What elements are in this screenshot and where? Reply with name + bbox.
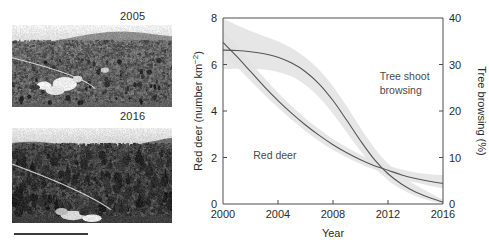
y-tick-label-right: 40	[449, 12, 461, 24]
annotation: browsing	[380, 84, 422, 96]
photo-2005	[12, 25, 172, 107]
y-tick-label-right: 10	[449, 152, 461, 164]
y-tick-label-left: 6	[211, 59, 217, 71]
x-tick-label: 2012	[376, 208, 400, 220]
y-tick-label-right: 0	[449, 198, 455, 210]
y-tick-label-left: 4	[211, 105, 217, 117]
confidence-bands	[223, 18, 443, 203]
x-tick-label: 2004	[266, 208, 290, 220]
y-tick-label-right: 20	[449, 105, 461, 117]
photo-2016	[12, 128, 172, 223]
y-tick-label-left: 0	[211, 198, 217, 210]
y-tick-label-left: 2	[211, 152, 217, 164]
y-tick-label-left: 8	[211, 12, 217, 24]
x-tick-label: 2008	[321, 208, 345, 220]
photo-2005-image	[12, 25, 172, 107]
photo-caption-2005: 2005	[120, 10, 145, 22]
y-tick-label-right: 30	[449, 59, 461, 71]
chart-panel: 2000200420082012201602468010203040 Red d…	[190, 0, 489, 243]
annotation: Tree shoot	[380, 70, 430, 82]
red-deer-tree-browsing-chart: 2000200420082012201602468010203040 Red d…	[190, 0, 489, 243]
annotation: Red deer	[253, 149, 297, 161]
photo-2016-image	[12, 128, 172, 223]
scale-bar	[14, 233, 88, 235]
x-axis-title: Year	[322, 227, 345, 239]
photo-panel: 2005 2016	[0, 0, 190, 243]
y-axis-title-right: Tree browsing (%)	[476, 66, 488, 155]
photo-caption-2016: 2016	[120, 110, 145, 122]
y-axis-title-left: Red deer (number km−2)	[191, 51, 205, 171]
